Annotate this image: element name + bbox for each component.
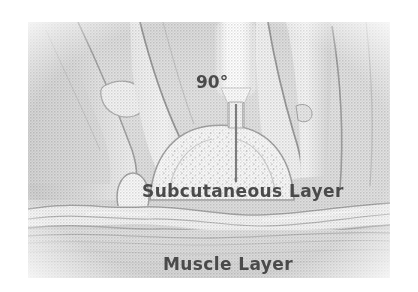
plate-edge-vignette — [28, 22, 390, 278]
margin-right — [390, 0, 418, 292]
injection-illustration-svg: 90° Subcutaneous Layer Muscle Layer — [0, 0, 418, 292]
illustration-figure: 90° Subcutaneous Layer Muscle Layer — [0, 0, 418, 292]
margin-left — [0, 0, 28, 292]
margin-bottom — [0, 278, 418, 292]
illustration-plate: 90° Subcutaneous Layer Muscle Layer — [28, 20, 390, 278]
margin-top — [0, 0, 418, 22]
